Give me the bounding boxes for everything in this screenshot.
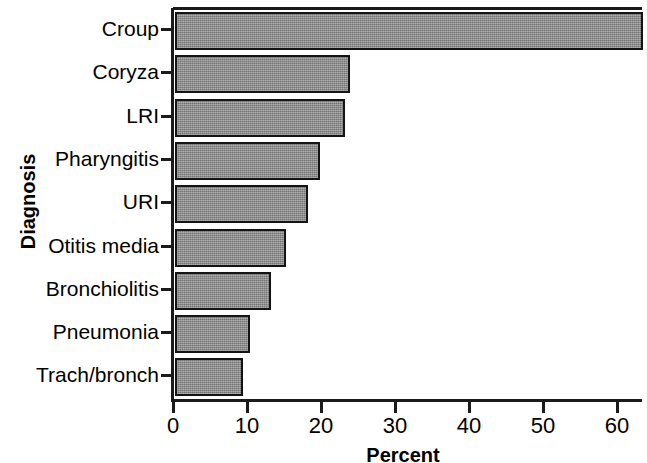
x-axis-tick: [468, 401, 471, 413]
category-label-otitis-media: Otitis media: [0, 235, 159, 256]
category-tick: [161, 158, 173, 161]
x-axis-tick-label-30: 30: [365, 414, 425, 438]
bar-bronchiolitis: [175, 272, 271, 310]
x-axis-tick-label-50: 50: [513, 414, 573, 438]
x-axis-tick-label-40: 40: [439, 414, 499, 438]
category-label-pharyngitis: Pharyngitis: [0, 148, 159, 169]
bar-pharyngitis: [175, 142, 320, 180]
x-axis-tick-label-0: 0: [143, 414, 203, 438]
category-tick: [161, 331, 173, 334]
category-label-uri: URI: [0, 191, 159, 212]
category-label-trach-bronch: Trach/bronch: [0, 364, 159, 385]
plot-area: [173, 8, 642, 400]
bar-croup: [175, 12, 643, 50]
bar-lri: [175, 99, 345, 137]
category-tick: [161, 245, 173, 248]
bar-uri: [175, 185, 308, 223]
x-axis-tick: [172, 401, 175, 413]
bar-coryza: [175, 55, 350, 93]
x-axis-tick-label-60: 60: [587, 414, 647, 438]
bar-otitis-media: [175, 229, 286, 267]
x-axis-tick-label-10: 10: [217, 414, 277, 438]
x-axis-tick-label-20: 20: [291, 414, 351, 438]
x-axis-tick: [542, 401, 545, 413]
x-axis-tick: [320, 401, 323, 413]
category-tick: [161, 288, 173, 291]
x-axis-tick: [394, 401, 397, 413]
x-axis-tick: [616, 401, 619, 413]
x-axis-title: Percent: [173, 444, 633, 463]
category-tick: [161, 71, 173, 74]
x-axis-tick: [246, 401, 249, 413]
category-label-coryza: Coryza: [0, 61, 159, 82]
bar-trach-bronch: [175, 358, 243, 396]
category-label-croup: Croup: [0, 18, 159, 39]
category-label-bronchiolitis: Bronchiolitis: [0, 278, 159, 299]
category-tick: [161, 28, 173, 31]
category-label-lri: LRI: [0, 105, 159, 126]
category-tick: [161, 374, 173, 377]
category-label-pneumonia: Pneumonia: [0, 321, 159, 342]
bar-pneumonia: [175, 315, 250, 353]
category-tick: [161, 115, 173, 118]
category-tick: [161, 201, 173, 204]
